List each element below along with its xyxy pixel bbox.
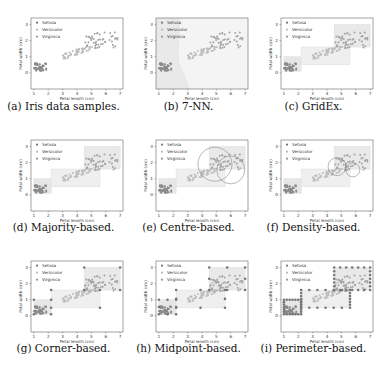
svg-text:Versicolor: Versicolor (167, 149, 188, 154)
svg-text:2: 2 (150, 38, 153, 43)
svg-text:6: 6 (354, 334, 357, 339)
svg-text:2: 2 (297, 334, 300, 339)
svg-text:7: 7 (119, 213, 122, 218)
svg-text:Petal width (cm): Petal width (cm) (18, 37, 23, 70)
svg-text:2: 2 (150, 160, 153, 165)
svg-text:Petal width (cm): Petal width (cm) (268, 280, 273, 313)
svg-text:2: 2 (150, 281, 153, 286)
svg-text:Virginica: Virginica (167, 34, 186, 39)
svg-text:7: 7 (119, 334, 122, 339)
scatter-plot: 12345670123Petal length (cm)Petal width … (0, 122, 127, 222)
svg-text:7: 7 (369, 213, 372, 218)
svg-text:1: 1 (275, 176, 278, 181)
svg-text:2: 2 (47, 213, 50, 218)
scatter-plot: 12345670123Petal length (cm)Petal width … (125, 122, 252, 222)
svg-text:3: 3 (25, 144, 28, 149)
svg-text:1: 1 (33, 213, 36, 218)
svg-text:6: 6 (354, 91, 357, 96)
svg-text:3: 3 (150, 144, 153, 149)
svg-text:Setosa: Setosa (42, 263, 57, 268)
svg-text:3: 3 (150, 22, 153, 27)
svg-text:Versicolor: Versicolor (42, 27, 63, 32)
svg-text:Setosa: Setosa (292, 142, 307, 147)
panel-caption: (d) Majority-based. (0, 221, 127, 233)
svg-text:6: 6 (229, 334, 232, 339)
svg-text:Petal width (cm): Petal width (cm) (268, 37, 273, 70)
svg-text:2: 2 (172, 91, 175, 96)
scatter-plot: 12345670123Petal length (cm)Petal width … (125, 243, 252, 343)
svg-text:1: 1 (25, 297, 28, 302)
panel-caption: (e) Centre-based. (125, 221, 252, 233)
panel-caption: (i) Perimeter-based. (250, 342, 377, 354)
svg-text:Virginica: Virginica (292, 156, 311, 161)
svg-text:Setosa: Setosa (42, 20, 57, 25)
svg-text:0: 0 (150, 192, 153, 197)
svg-text:1: 1 (150, 297, 153, 302)
panel-caption: (a) Iris data samples. (0, 100, 127, 112)
svg-text:1: 1 (283, 213, 286, 218)
svg-text:1: 1 (283, 91, 286, 96)
svg-text:0: 0 (25, 70, 28, 75)
svg-text:3: 3 (25, 265, 28, 270)
svg-text:1: 1 (150, 176, 153, 181)
panel-caption: (g) Corner-based. (0, 342, 127, 354)
panel-caption: (f) Density-based. (250, 221, 377, 233)
svg-text:2: 2 (275, 38, 278, 43)
svg-text:7: 7 (244, 334, 247, 339)
svg-text:Versicolor: Versicolor (42, 149, 63, 154)
svg-text:1: 1 (150, 54, 153, 59)
svg-text:1: 1 (283, 334, 286, 339)
panel-h: 12345670123Petal length (cm)Petal width … (125, 243, 252, 365)
svg-text:Petal width (cm): Petal width (cm) (143, 280, 148, 313)
svg-text:3: 3 (275, 144, 278, 149)
panel-g: 12345670123Petal length (cm)Petal width … (0, 243, 127, 365)
svg-text:Virginica: Virginica (42, 156, 61, 161)
svg-text:Setosa: Setosa (167, 142, 182, 147)
svg-text:0: 0 (275, 192, 278, 197)
svg-text:2: 2 (172, 334, 175, 339)
svg-text:3: 3 (25, 22, 28, 27)
svg-text:6: 6 (104, 334, 107, 339)
svg-text:6: 6 (229, 213, 232, 218)
svg-text:2: 2 (275, 281, 278, 286)
svg-text:7: 7 (119, 91, 122, 96)
svg-text:2: 2 (25, 160, 28, 165)
svg-text:Petal width (cm): Petal width (cm) (18, 280, 23, 313)
svg-text:Petal width (cm): Petal width (cm) (143, 37, 148, 70)
svg-text:7: 7 (369, 334, 372, 339)
svg-text:7: 7 (244, 91, 247, 96)
svg-text:2: 2 (275, 160, 278, 165)
panel-f: 12345670123Petal length (cm)Petal width … (250, 122, 377, 244)
scatter-plot: 12345670123Petal length (cm)Petal width … (0, 0, 127, 100)
svg-text:3: 3 (150, 265, 153, 270)
svg-text:2: 2 (297, 91, 300, 96)
svg-text:1: 1 (33, 91, 36, 96)
svg-text:7: 7 (369, 91, 372, 96)
svg-text:0: 0 (25, 313, 28, 318)
svg-text:0: 0 (150, 70, 153, 75)
svg-text:Versicolor: Versicolor (42, 270, 63, 275)
svg-text:2: 2 (47, 91, 50, 96)
svg-text:Setosa: Setosa (292, 20, 307, 25)
panel-d: 12345670123Petal length (cm)Petal width … (0, 122, 127, 244)
svg-text:Versicolor: Versicolor (292, 27, 313, 32)
svg-text:7: 7 (244, 213, 247, 218)
svg-text:0: 0 (275, 313, 278, 318)
svg-text:Virginica: Virginica (42, 34, 61, 39)
svg-text:Petal width (cm): Petal width (cm) (18, 159, 23, 192)
svg-text:1: 1 (275, 54, 278, 59)
svg-text:Versicolor: Versicolor (292, 270, 313, 275)
svg-text:1: 1 (158, 91, 161, 96)
scatter-plot: 12345670123Petal length (cm)Petal width … (250, 122, 377, 222)
svg-text:Petal width (cm): Petal width (cm) (143, 159, 148, 192)
svg-text:Virginica: Virginica (42, 277, 61, 282)
svg-text:2: 2 (25, 281, 28, 286)
svg-text:1: 1 (158, 334, 161, 339)
panel-caption: (c) GridEx. (250, 100, 377, 112)
panel-caption: (b) 7-NN. (125, 100, 252, 112)
svg-text:Setosa: Setosa (292, 263, 307, 268)
panel-b: 12345670123Petal length (cm)Petal width … (125, 0, 252, 122)
svg-text:6: 6 (104, 213, 107, 218)
svg-text:3: 3 (275, 22, 278, 27)
svg-text:Setosa: Setosa (167, 20, 182, 25)
